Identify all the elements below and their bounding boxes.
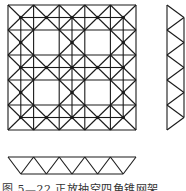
space-grid-diagram <box>0 0 186 180</box>
bottom-profile <box>8 157 136 174</box>
side-profile <box>167 5 184 130</box>
figure-caption: 图 5—22 正放抽空四角锥网架 <box>2 180 186 191</box>
plan-view <box>8 5 136 130</box>
